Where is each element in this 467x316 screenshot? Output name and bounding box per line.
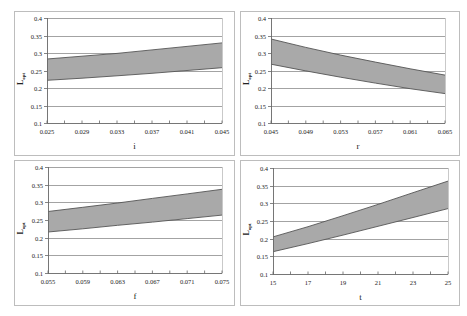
x-tick-label: 0.029 [75, 128, 90, 135]
x-tick-label: 25 [445, 279, 452, 286]
y-tick-label: 0.4 [34, 15, 43, 22]
x-tick-label: 0.075 [215, 278, 230, 285]
x-tick-label: 0.065 [438, 128, 453, 135]
x-tick-label: 0.045 [215, 128, 230, 135]
y-tick-label: 0.35 [32, 182, 43, 189]
y-tick-label: 0.2 [260, 236, 268, 243]
y-tick-label: 0.3 [35, 199, 43, 206]
x-tick-label: 15 [270, 279, 277, 286]
x-tick-label: 0.059 [75, 278, 90, 285]
chart-panel-t: 0.10.150.20.250.30.350.4151719212325tLop… [241, 161, 460, 306]
x-tick-label: 0.049 [298, 128, 313, 135]
y-tick-label: 0.15 [257, 253, 268, 260]
y-tick-label: 0.35 [31, 33, 42, 40]
y-tick-label: 0.15 [31, 103, 42, 110]
x-tick-label: 0.067 [145, 278, 160, 285]
x-tick-label: 17 [305, 279, 312, 286]
x-tick-label: 19 [340, 279, 347, 286]
x-tick-label: 0.063 [110, 278, 125, 285]
x-tick-label: 0.033 [110, 128, 125, 135]
x-tick-label: 0.041 [180, 128, 195, 135]
chart-grid: 0.10.150.20.250.30.350.40.0250.0290.0330… [0, 0, 467, 316]
chart-panel-i: 0.10.150.20.250.30.350.40.0250.0290.0330… [15, 12, 235, 156]
y-tick-label: 0.35 [257, 183, 268, 190]
y-tick-label: 0.3 [258, 50, 266, 57]
y-tick-label: 0.3 [260, 200, 268, 207]
y-tick-label: 0.2 [35, 235, 43, 242]
x-tick-label: 0.061 [403, 128, 418, 135]
y-tick-label: 0.1 [34, 120, 42, 127]
y-tick-label: 0.1 [260, 271, 268, 278]
chart-panel-f: 0.10.150.20.250.30.350.40.0550.0590.0630… [15, 161, 235, 306]
y-tick-label: 0.1 [35, 270, 43, 277]
x-axis-title: f [134, 291, 137, 301]
y-tick-label: 0.3 [34, 50, 42, 57]
y-tick-label: 0.25 [255, 68, 266, 75]
y-tick-label: 0.1 [258, 120, 266, 127]
x-tick-label: 0.071 [180, 278, 195, 285]
x-tick-label: 0.055 [41, 278, 56, 285]
x-tick-label: 0.037 [145, 128, 160, 135]
x-axis-title: r [357, 141, 360, 151]
chart-panel-r: 0.10.150.20.250.30.350.40.0450.0490.0530… [241, 12, 460, 156]
x-tick-label: 0.025 [40, 128, 55, 135]
y-tick-label: 0.15 [255, 103, 266, 110]
y-tick-label: 0.4 [260, 165, 269, 172]
y-tick-label: 0.2 [258, 85, 266, 92]
y-tick-label: 0.25 [31, 68, 42, 75]
y-tick-label: 0.2 [34, 85, 42, 92]
y-tick-label: 0.4 [35, 164, 44, 171]
y-tick-label: 0.15 [32, 252, 43, 259]
y-tick-label: 0.35 [255, 33, 266, 40]
x-tick-label: 23 [410, 279, 417, 286]
y-tick-label: 0.25 [32, 217, 43, 224]
x-tick-label: 21 [375, 279, 382, 286]
x-tick-label: 0.045 [264, 128, 279, 135]
x-tick-label: 0.057 [368, 128, 383, 135]
y-tick-label: 0.25 [257, 218, 268, 225]
y-tick-label: 0.4 [258, 15, 267, 22]
x-tick-label: 0.053 [333, 128, 348, 135]
